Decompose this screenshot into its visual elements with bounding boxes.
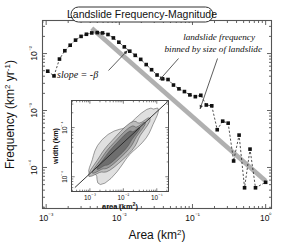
data-point xyxy=(117,40,121,44)
data-point xyxy=(177,87,181,91)
inset-y-axis-label: width (km) xyxy=(51,127,60,165)
data-point xyxy=(101,31,105,35)
x-axis-label: Area (km2) xyxy=(128,228,185,242)
binned-annotation-line2: binned by size of landslide xyxy=(165,44,262,54)
y-axis-label: Frequency (km2 yr-1) xyxy=(3,60,17,169)
figure-container: Landslide Frequency-Magnitude10⁻³10⁻²10⁻… xyxy=(0,0,288,251)
data-point xyxy=(237,133,241,137)
data-point xyxy=(232,159,236,163)
data-point xyxy=(172,83,176,87)
landslide-frequency-magnitude-chart: Landslide Frequency-Magnitude10⁻³10⁻²10⁻… xyxy=(0,0,288,251)
data-point xyxy=(128,49,132,53)
data-point xyxy=(63,49,67,53)
binned-annotation-line1: landslide frequency xyxy=(183,32,256,42)
data-point xyxy=(79,35,83,39)
data-point xyxy=(150,68,154,72)
data-point xyxy=(85,32,89,36)
data-point xyxy=(226,121,230,125)
data-point xyxy=(204,103,208,107)
data-point xyxy=(90,31,94,35)
data-point xyxy=(112,36,116,40)
data-point xyxy=(74,38,78,42)
data-point xyxy=(215,128,219,132)
data-point xyxy=(243,186,247,190)
data-point xyxy=(155,73,159,77)
data-point xyxy=(106,33,110,37)
inset-plot xyxy=(72,95,169,191)
data-point xyxy=(183,90,187,94)
data-point xyxy=(188,93,192,97)
data-point xyxy=(144,63,148,67)
data-point xyxy=(221,119,225,123)
chart-title: Landslide Frequency-Magnitude xyxy=(67,8,217,20)
slope-annotation: slope = -β xyxy=(57,69,98,80)
data-point xyxy=(199,93,203,97)
data-point xyxy=(139,58,143,62)
data-point xyxy=(210,104,214,108)
data-point xyxy=(46,69,50,73)
data-point xyxy=(58,57,62,61)
data-point xyxy=(264,180,268,184)
data-point xyxy=(194,95,198,99)
data-point xyxy=(52,74,56,78)
data-point xyxy=(133,54,137,58)
data-point xyxy=(96,31,100,35)
data-point xyxy=(68,43,72,47)
data-point xyxy=(123,45,127,49)
data-point xyxy=(166,78,170,82)
data-point xyxy=(248,147,252,151)
data-point xyxy=(254,186,258,190)
